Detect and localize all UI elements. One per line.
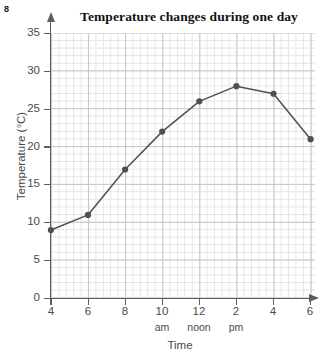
temperature-line <box>51 86 311 230</box>
data-point-4 <box>48 227 54 233</box>
chart-figure: 8 Temperature changes during one day 0 5… <box>0 0 323 360</box>
data-series-layer <box>0 0 323 360</box>
data-point-4 <box>270 91 276 97</box>
temperature-markers <box>48 83 314 233</box>
data-point-8 <box>122 166 128 172</box>
data-point-10 <box>159 129 165 135</box>
data-point-12 <box>196 98 202 104</box>
data-point-6 <box>85 212 91 218</box>
data-point-2 <box>233 83 239 89</box>
data-point-6 <box>308 136 314 142</box>
